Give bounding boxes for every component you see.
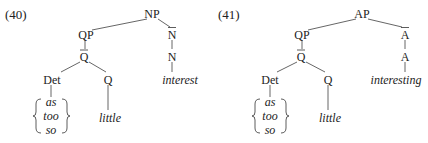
tree-41: (41) AP QP A Q A Det Q interesting as to… <box>218 7 421 137</box>
det-option: so <box>46 123 57 137</box>
node-qp: QP <box>78 28 94 42</box>
node-det: Det <box>43 73 61 87</box>
edge-qbar-det <box>61 62 80 72</box>
syntax-trees: (40) NP QP N Q N Det Q interest as too s… <box>0 0 428 143</box>
left-brace-icon <box>33 99 41 133</box>
node-n: N <box>168 50 177 64</box>
edge-qbar-q <box>306 62 325 72</box>
node-n-bar: N <box>168 28 177 42</box>
edge-root-qp <box>308 19 356 30</box>
edge-qbar-det <box>277 62 297 72</box>
node-q: Q <box>324 73 333 87</box>
tree-40: (40) NP QP N Q N Det Q interest as too s… <box>5 7 198 137</box>
edge-root-nbar <box>158 19 170 27</box>
det-option: so <box>265 123 276 137</box>
node-qp: QP <box>294 28 310 42</box>
node-a: A <box>401 50 410 64</box>
word-little: little <box>319 111 342 125</box>
node-np: NP <box>144 7 160 21</box>
left-brace-icon <box>252 99 260 133</box>
word-little: little <box>99 111 122 125</box>
det-option: too <box>43 109 58 123</box>
edge-root-qp <box>92 19 147 30</box>
right-brace-icon <box>281 99 289 133</box>
node-ap: AP <box>354 7 370 21</box>
node-det: Det <box>261 73 279 87</box>
node-q-bar: Q <box>80 50 89 64</box>
word-interest: interest <box>162 73 198 87</box>
edge-qbar-q <box>89 62 106 72</box>
node-q-bar: Q <box>297 50 306 64</box>
node-q: Q <box>104 73 113 87</box>
det-option: as <box>46 95 57 109</box>
example-number-label: (40) <box>5 7 27 22</box>
word-interesting: interesting <box>371 73 422 87</box>
right-brace-icon <box>62 99 70 133</box>
det-option: too <box>262 109 277 123</box>
example-number-label: (41) <box>218 7 240 22</box>
det-option: as <box>265 95 276 109</box>
node-a-bar: A <box>401 28 410 42</box>
edge-root-abar <box>368 19 402 27</box>
